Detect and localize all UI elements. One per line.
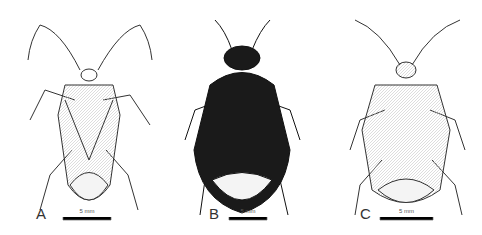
panel-label-b: B [209, 205, 219, 222]
panel-label-c: C [360, 205, 371, 222]
scale-label-c: 5 mm [380, 208, 433, 214]
insect-c [350, 20, 465, 215]
scale-label-b: 5 mm [229, 208, 267, 214]
scale-label-a: 5 mm [63, 208, 111, 214]
insect-b [185, 20, 300, 215]
insect-a [28, 25, 152, 210]
insect-illustrations [0, 0, 482, 235]
panel-label-a: A [36, 205, 46, 222]
